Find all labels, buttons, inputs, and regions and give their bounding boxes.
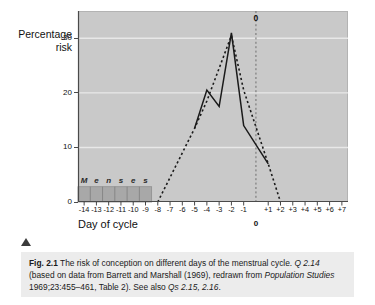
- y-tick-mark: [74, 92, 78, 93]
- zero-label-bottom: 0: [249, 219, 263, 228]
- y-tick-mark: [74, 38, 78, 39]
- menses-letter: s: [139, 176, 153, 185]
- x-tick-label: +7: [334, 205, 350, 214]
- x-tick-label: -1: [236, 205, 252, 214]
- menses-band: [78, 187, 152, 202]
- y-tick-mark: [74, 147, 78, 148]
- caption-text: Fig. 2.1 The risk of conception on diffe…: [29, 257, 347, 294]
- data-series-layer: [158, 33, 281, 202]
- x-tick-labels: -14-13-12-11-10-9-8-7-6-5-4-3-2-1+1+2+3+…: [78, 205, 348, 217]
- axis-lines: [78, 11, 348, 202]
- y-tick-label: 10: [50, 143, 72, 151]
- x-axis-title: Day of cycle: [78, 218, 138, 230]
- gridlines: [78, 38, 348, 147]
- plot-canvas: [78, 11, 348, 202]
- y-tick-mark: [74, 202, 78, 203]
- y-tick-label: 0: [50, 198, 72, 206]
- y-tick-label: 20: [50, 89, 72, 97]
- zero-label-top: 0: [249, 13, 263, 23]
- y-tick-label: 30: [50, 34, 72, 42]
- caption-triangle-marker: [21, 238, 31, 246]
- caption-box: Fig. 2.1 The risk of conception on diffe…: [21, 252, 354, 297]
- figure-chart: Percentage risk 0102030 Menses -14-13-12…: [0, 0, 375, 240]
